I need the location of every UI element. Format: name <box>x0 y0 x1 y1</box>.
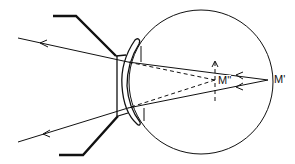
eye-circle <box>129 10 273 154</box>
arrow-icon <box>236 72 243 79</box>
upper-ray-inside <box>128 62 268 80</box>
frame-top <box>53 16 116 56</box>
frame-bottom <box>59 116 118 155</box>
optics-diagram: M' M'' <box>0 0 295 164</box>
lower-dashed-ray <box>128 80 215 108</box>
frame-connector-top <box>116 55 126 56</box>
label-far-point: M' <box>274 74 285 85</box>
upper-dashed-ray <box>128 62 215 80</box>
lower-ray-inside <box>128 80 268 108</box>
arrow-icon <box>236 83 243 90</box>
label-virtual-image: M'' <box>218 75 231 86</box>
diagram-svg <box>0 0 295 164</box>
frame-connector-bottom <box>118 113 128 116</box>
lens <box>122 39 140 125</box>
